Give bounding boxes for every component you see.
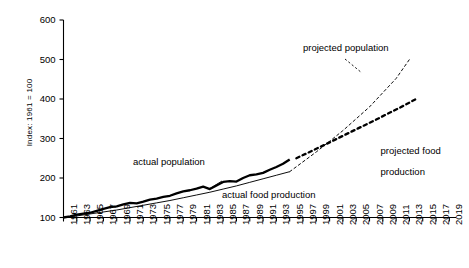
x-tick-label-1991: 1991 — [267, 203, 278, 224]
axis-lines — [64, 20, 457, 218]
x-tick-label-1999: 1999 — [320, 203, 331, 224]
x-tick-label-1969: 1969 — [121, 203, 132, 224]
x-tick-label-1967: 1967 — [107, 203, 118, 224]
y-tick-label-100: 100 — [22, 212, 56, 223]
x-tick-label-1975: 1975 — [161, 203, 172, 224]
x-tick-label-1985: 1985 — [227, 203, 238, 224]
x-tick-label-2017: 2017 — [440, 203, 451, 224]
x-tick-label-2015: 2015 — [427, 203, 438, 224]
annotation-leader-lines — [209, 59, 362, 189]
chart-plot-area — [0, 0, 469, 268]
x-tick-label-1989: 1989 — [254, 203, 265, 224]
x-tick-label-1963: 1963 — [81, 203, 92, 224]
x-tick-label-1993: 1993 — [280, 203, 291, 224]
x-tick-label-2007: 2007 — [374, 203, 385, 224]
x-tick-label-2013: 2013 — [413, 203, 424, 224]
x-tick-label-1987: 1987 — [240, 203, 251, 224]
x-tick-label-2001: 2001 — [334, 203, 345, 224]
x-tick-label-2005: 2005 — [360, 203, 371, 224]
annotation-actual-food-production: actual food production — [222, 190, 315, 201]
annotation-projected-population: projected population — [303, 43, 389, 54]
x-tick-label-1961: 1961 — [68, 203, 79, 224]
y-tick-label-300: 300 — [22, 133, 56, 144]
leader-projected-population — [345, 59, 362, 73]
x-tick-label-1981: 1981 — [201, 203, 212, 224]
y-tick-label-200: 200 — [22, 172, 56, 183]
x-tick-label-2009: 2009 — [387, 203, 398, 224]
x-tick-label-2003: 2003 — [347, 203, 358, 224]
y-axis-title: Index: 1961 = 100 — [25, 53, 34, 173]
x-tick-label-1965: 1965 — [94, 203, 105, 224]
x-tick-label-1971: 1971 — [134, 203, 145, 224]
annotation-projected-food-production: projected food production — [370, 135, 441, 188]
x-tick-label-2011: 2011 — [400, 204, 411, 224]
y-axis-tick-marks — [60, 20, 64, 218]
x-tick-label-2019: 2019 — [453, 203, 464, 224]
y-tick-label-600: 600 — [22, 14, 56, 25]
x-tick-label-1973: 1973 — [147, 203, 158, 224]
annotation-actual-population: actual population — [133, 157, 205, 168]
x-tick-label-1979: 1979 — [187, 203, 198, 224]
leader-actual-food-production — [209, 181, 222, 189]
projected-food-line2: production — [381, 166, 425, 177]
y-tick-label-500: 500 — [22, 54, 56, 65]
x-tick-label-1997: 1997 — [307, 203, 318, 224]
population-food-production-chart: Index: 1961 = 100 100200300400500600 196… — [0, 0, 469, 268]
x-tick-label-1977: 1977 — [174, 203, 185, 224]
y-tick-label-400: 400 — [22, 93, 56, 104]
x-tick-label-1983: 1983 — [214, 203, 225, 224]
projected-food-line1: projected food — [381, 145, 441, 156]
x-tick-label-1995: 1995 — [294, 203, 305, 224]
